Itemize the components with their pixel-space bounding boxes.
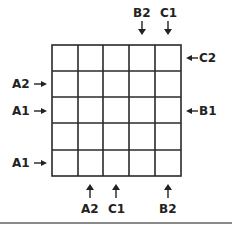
grid (52, 45, 181, 176)
arrow-up-icon (112, 184, 120, 198)
left-label-a1-lower: A1 (12, 157, 30, 169)
bottom-label-c1: C1 (108, 203, 125, 215)
left-label-a2: A2 (12, 78, 30, 90)
right-label-b1: B1 (199, 105, 217, 117)
arrow-left-icon (186, 108, 198, 114)
bottom-label-b2: B2 (159, 203, 177, 215)
arrow-down-icon (164, 21, 172, 35)
arrow-up-icon (164, 184, 172, 198)
top-label-c1: C1 (160, 7, 177, 19)
arrow-down-icon (138, 21, 146, 35)
arrow-up-icon (86, 184, 94, 198)
right-label-c2: C2 (199, 52, 216, 64)
top-label-b2: B2 (133, 7, 151, 19)
bottom-label-a2: A2 (81, 203, 99, 215)
arrow-right-icon (34, 108, 47, 114)
arrow-right-icon (34, 160, 47, 166)
arrow-left-icon (186, 55, 198, 61)
arrow-right-icon (34, 81, 47, 87)
left-label-a1: A1 (12, 105, 30, 117)
separator-rule (0, 222, 232, 224)
diagram-canvas (0, 0, 232, 229)
